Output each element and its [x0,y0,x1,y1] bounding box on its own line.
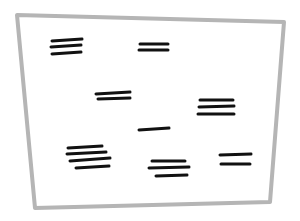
text-placeholder-stroke [139,128,169,130]
group-top-center [139,44,168,50]
text-placeholder-stroke [98,98,130,99]
text-placeholder-stroke [96,92,130,94]
group-right-middle [198,100,234,114]
text-placeholder-stroke [76,166,109,168]
text-placeholder-groups [51,39,251,176]
text-placeholder-stroke [52,39,82,41]
group-bottom-left [67,146,110,168]
text-placeholder-stroke [67,152,106,154]
text-placeholder-stroke [199,106,234,107]
text-placeholder-stroke [68,146,102,148]
text-placeholder-stroke [52,52,81,54]
text-placeholder-stroke [149,167,189,168]
sketch-drawing [0,0,300,221]
text-placeholder-stroke [51,45,81,47]
group-middle-left [96,92,130,99]
text-placeholder-stroke [70,158,110,161]
wireframe-sketch [0,0,300,221]
text-placeholder-stroke [220,154,251,155]
group-bottom-right [220,154,251,164]
text-placeholder-stroke [156,175,187,176]
group-bottom-center [149,161,189,176]
group-center-single [139,128,169,130]
group-top-left [51,39,82,54]
